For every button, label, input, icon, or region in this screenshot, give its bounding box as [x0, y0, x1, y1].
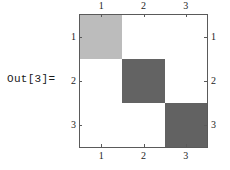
tick-label-top-3: 3 — [179, 1, 193, 11]
output-prompt-label: Out[3]= — [7, 73, 55, 85]
matrix-cell — [165, 103, 207, 147]
tick-label-bottom-2: 2 — [137, 151, 151, 161]
tick-label-right-3: 3 — [211, 120, 223, 130]
tick-label-top-1: 1 — [94, 1, 108, 11]
tick-label-right-1: 1 — [211, 32, 223, 42]
tick-label-left-2: 2 — [64, 76, 76, 86]
tick-top-3 — [186, 14, 187, 17]
tick-label-left-3: 3 — [64, 120, 76, 130]
tick-top-2 — [144, 14, 145, 17]
tick-right-2 — [204, 81, 207, 82]
tick-label-top-2: 2 — [137, 1, 151, 11]
matrix-cells — [80, 15, 207, 147]
tick-bottom-3 — [186, 144, 187, 147]
tick-bottom-1 — [101, 144, 102, 147]
tick-left-3 — [79, 125, 82, 126]
tick-label-right-2: 2 — [211, 76, 223, 86]
mathematica-output-cell: Out[3]= 112233112233 — [0, 0, 230, 170]
tick-label-left-1: 1 — [64, 32, 76, 42]
tick-left-2 — [79, 81, 82, 82]
tick-label-bottom-3: 3 — [179, 151, 193, 161]
tick-top-1 — [101, 14, 102, 17]
tick-left-1 — [79, 37, 82, 38]
matrix-cell — [122, 59, 164, 103]
tick-right-1 — [204, 37, 207, 38]
matrix-plot[interactable]: 112233112233 — [79, 14, 208, 148]
tick-label-bottom-1: 1 — [94, 151, 108, 161]
tick-right-3 — [204, 125, 207, 126]
tick-bottom-2 — [144, 144, 145, 147]
matrix-cell — [80, 15, 122, 59]
